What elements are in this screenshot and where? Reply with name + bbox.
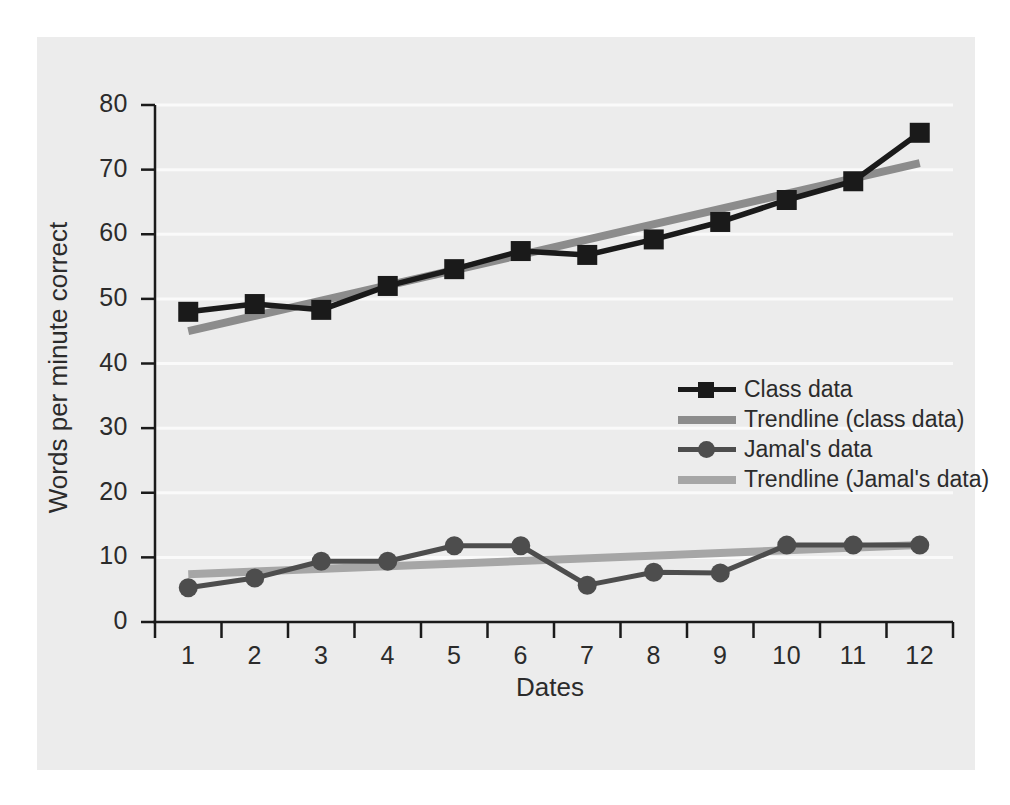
series-trendline-jamal (188, 545, 920, 574)
legend-key-icon (676, 436, 738, 462)
x-tick-label: 3 (296, 641, 346, 670)
chart-figure: 01020304050607080 123456789101112 Words … (0, 0, 1010, 805)
y-tick-label: 40 (68, 348, 128, 377)
x-tick-label: 5 (429, 641, 479, 670)
x-tick-label: 6 (496, 641, 546, 670)
y-tick-label: 10 (68, 541, 128, 570)
legend-key-icon (676, 406, 738, 432)
legend-item[interactable]: Trendline (class data) (676, 404, 976, 434)
x-tick-label: 9 (695, 641, 745, 670)
y-tick-label: 0 (68, 606, 128, 635)
series-markers-class (178, 123, 930, 322)
legend-key-circle-marker (698, 441, 715, 458)
legend-key-line (678, 416, 736, 424)
x-tick-label: 10 (762, 641, 812, 670)
x-tick-label: 12 (895, 641, 945, 670)
x-tick-label: 11 (828, 641, 878, 670)
y-tick-label: 20 (68, 477, 128, 506)
chart-legend: Class dataTrendline (class data)Jamal's … (676, 374, 976, 494)
x-tick-label: 7 (562, 641, 612, 670)
legend-key-square-marker (698, 382, 714, 398)
y-axis-title: Words per minute correct (43, 158, 74, 578)
series-line-class (188, 133, 920, 312)
legend-item[interactable]: Trendline (Jamal's data) (676, 464, 976, 494)
y-tick-label: 70 (68, 154, 128, 183)
y-tick-label: 60 (68, 218, 128, 247)
x-tick-label: 2 (230, 641, 280, 670)
legend-item[interactable]: Class data (676, 374, 976, 404)
legend-key-icon (676, 466, 738, 492)
y-tick-label: 80 (68, 89, 128, 118)
legend-item-label: Jamal's data (738, 436, 872, 463)
legend-item-label: Trendline (class data) (738, 406, 964, 433)
legend-item-label: Class data (738, 376, 853, 403)
x-tick-label: 8 (629, 641, 679, 670)
x-axis-title: Dates (130, 672, 970, 703)
x-tick-label: 1 (163, 641, 213, 670)
legend-item-label: Trendline (Jamal's data) (738, 466, 989, 493)
y-tick-label: 50 (68, 283, 128, 312)
x-tick-label: 4 (363, 641, 413, 670)
legend-key-icon (676, 376, 738, 402)
legend-key-line (678, 476, 736, 484)
y-tick-label: 30 (68, 412, 128, 441)
legend-item[interactable]: Jamal's data (676, 434, 976, 464)
